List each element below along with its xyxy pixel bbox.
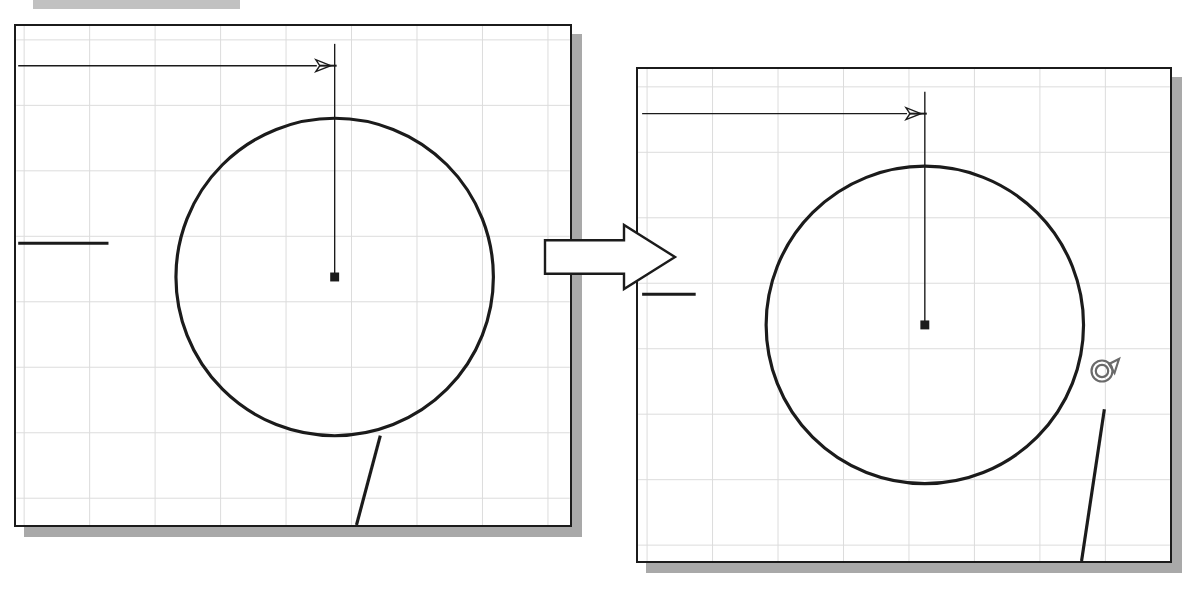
snap-cursor-tail xyxy=(1109,359,1119,373)
figure-stage xyxy=(0,0,1201,591)
before-panel[interactable] xyxy=(14,24,572,527)
snap-cursor-glyph xyxy=(1085,347,1127,389)
circle-center-marker xyxy=(920,320,929,329)
before-panel-drawing xyxy=(16,26,570,525)
transition-arrow-shape xyxy=(543,222,678,292)
tangent-leader-line xyxy=(356,436,380,525)
dimension-arrowhead xyxy=(316,60,337,72)
snap-cursor-inner-ring xyxy=(1096,365,1108,377)
transition-arrow-polygon xyxy=(545,225,675,289)
grid-lines xyxy=(16,26,570,525)
after-panel[interactable] xyxy=(636,67,1172,563)
snap-cursor-icon[interactable] xyxy=(1085,347,1127,389)
circle-center-marker xyxy=(330,273,339,282)
after-panel-drawing xyxy=(638,69,1170,561)
cropped-toolbar-strip xyxy=(33,0,240,9)
transition-arrow xyxy=(543,222,678,292)
tangent-leader-line xyxy=(1082,409,1105,561)
grid-lines xyxy=(638,69,1170,561)
